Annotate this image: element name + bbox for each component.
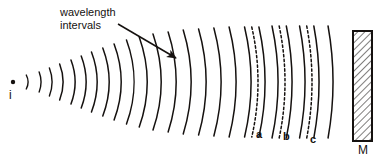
wavefront-arc-23 bbox=[286, 26, 292, 138]
source-label: i bbox=[9, 88, 12, 102]
wavefront-arc-1 bbox=[26, 75, 28, 89]
wavefront-arc-3 bbox=[49, 68, 52, 96]
annotation-label: wavelength intervals bbox=[60, 6, 116, 32]
wavefront-arc-a bbox=[252, 27, 258, 137]
wavefront-arc-10 bbox=[126, 40, 134, 124]
wavefront-label-c: c bbox=[310, 133, 316, 146]
wavefront-arc-21 bbox=[272, 26, 278, 138]
wavefront-diagram: wavelength intervals i a b c M bbox=[0, 0, 387, 161]
annotation-line-2: intervals bbox=[60, 19, 116, 32]
wavefront-arc-20 bbox=[259, 27, 265, 137]
diagram-canvas bbox=[0, 0, 387, 161]
wavefront-arc-13 bbox=[168, 32, 176, 132]
wavefront-arc-15 bbox=[199, 29, 206, 135]
wavefront-arc-6 bbox=[81, 56, 86, 108]
wavefront-arc-c bbox=[307, 26, 312, 138]
wavefront-arc-18 bbox=[245, 27, 251, 137]
mirror-label: M bbox=[358, 143, 368, 157]
wavefront-arc-7 bbox=[91, 52, 97, 112]
wavefront-arc-group bbox=[26, 26, 333, 138]
wavefront-arc-16 bbox=[214, 28, 221, 136]
wavefront-arc-9 bbox=[114, 44, 121, 120]
wavefront-arc-8 bbox=[103, 48, 109, 116]
wavefront-label-b: b bbox=[283, 130, 290, 143]
mirror-rect bbox=[353, 31, 372, 141]
wavefront-arc-b bbox=[279, 26, 285, 138]
wavefront-arc-5 bbox=[71, 60, 75, 104]
wavefront-arc-24 bbox=[300, 26, 305, 138]
annotation-line-1: wavelength bbox=[60, 6, 116, 18]
wavefront-arc-14 bbox=[183, 30, 191, 134]
source-point-icon bbox=[11, 80, 15, 84]
wavefront-arc-4 bbox=[60, 64, 63, 100]
wavefront-arc-2 bbox=[39, 72, 41, 92]
wavefront-arc-17 bbox=[229, 27, 236, 137]
wavefront-arc-26 bbox=[314, 26, 319, 138]
wavefront-arc-27 bbox=[328, 26, 333, 138]
wavefront-label-a: a bbox=[256, 128, 262, 141]
wavefront-arc-11 bbox=[139, 37, 147, 127]
